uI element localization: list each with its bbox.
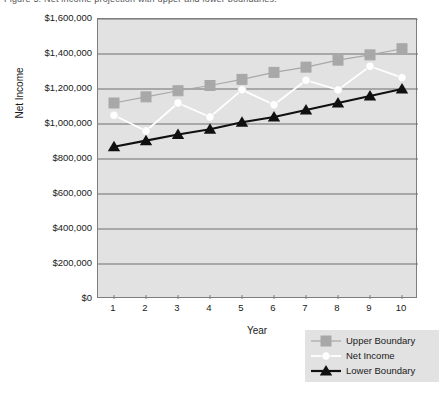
data-point-square <box>141 92 151 102</box>
data-point-circle <box>322 351 330 359</box>
y-axis-tick-label: $400,000 <box>30 223 92 233</box>
y-axis-tick-label: $200,000 <box>30 258 92 268</box>
y-axis-title: Net Income <box>14 38 28 148</box>
x-axis-tick-label: 5 <box>228 302 254 314</box>
y-axis-tick-label: $1,400,000 <box>30 48 92 58</box>
legend-item[interactable]: Lower Boundary <box>305 363 439 378</box>
legend-triangle-icon <box>309 364 343 378</box>
legend-label: Net Income <box>343 350 395 361</box>
legend-item[interactable]: Upper Boundary <box>305 333 439 348</box>
chart-legend: Upper BoundaryNet IncomeLower Boundary <box>305 330 439 382</box>
data-point-circle <box>110 111 118 119</box>
x-axis-tick-labels: 12345678910 <box>97 302 417 316</box>
x-axis-tick-label: 1 <box>100 302 126 314</box>
data-point-circle <box>238 86 246 94</box>
x-axis-tick-label: 10 <box>388 302 414 314</box>
y-axis-tick-label: $800,000 <box>30 153 92 163</box>
data-point-square <box>301 62 311 72</box>
series-lower-boundary <box>108 83 408 151</box>
data-point-circle <box>206 113 214 121</box>
x-axis-tick-label: 9 <box>356 302 382 314</box>
x-axis-tick-label: 8 <box>324 302 350 314</box>
data-point-triangle <box>396 83 408 94</box>
data-point-circle <box>398 73 406 81</box>
data-point-circle <box>334 86 342 94</box>
x-axis-tick-label: 2 <box>132 302 158 314</box>
legend-circle-icon <box>309 349 343 363</box>
plot-svg <box>98 19 418 299</box>
data-point-square <box>365 50 375 60</box>
legend-label: Lower Boundary <box>343 365 415 376</box>
data-point-circle <box>174 99 182 107</box>
legend-label: Upper Boundary <box>343 335 415 346</box>
y-axis-tick-label: $1,000,000 <box>30 118 92 128</box>
data-point-square <box>205 81 215 91</box>
y-axis-tick-label: $0 <box>30 293 92 303</box>
y-axis-tick-label: $1,200,000 <box>30 83 92 93</box>
data-point-circle <box>142 127 150 135</box>
data-point-circle <box>270 101 278 109</box>
x-axis-tick-label: 4 <box>196 302 222 314</box>
data-point-circle <box>302 76 310 84</box>
y-axis-tick-label: $1,600,000 <box>30 13 92 23</box>
data-point-square <box>397 44 407 54</box>
data-point-square <box>321 336 331 346</box>
legend-square-icon <box>309 334 343 348</box>
plot-area <box>97 18 417 298</box>
data-point-square <box>173 86 183 96</box>
data-point-square <box>109 98 119 108</box>
y-axis-tick-labels: $0$200,000$400,000$600,000$800,000$1,000… <box>30 0 92 393</box>
series-line <box>114 49 402 103</box>
y-axis-tick-label: $600,000 <box>30 188 92 198</box>
data-point-square <box>333 55 343 65</box>
x-axis-tick-label: 7 <box>292 302 318 314</box>
data-point-square <box>269 67 279 77</box>
data-point-square <box>237 74 247 84</box>
x-axis-tick-label: 6 <box>260 302 286 314</box>
legend-item[interactable]: Net Income <box>305 348 439 363</box>
chart-figure: Figure 5. Net income projection with upp… <box>0 0 443 393</box>
data-point-circle <box>366 62 374 70</box>
x-axis-tick-label: 3 <box>164 302 190 314</box>
